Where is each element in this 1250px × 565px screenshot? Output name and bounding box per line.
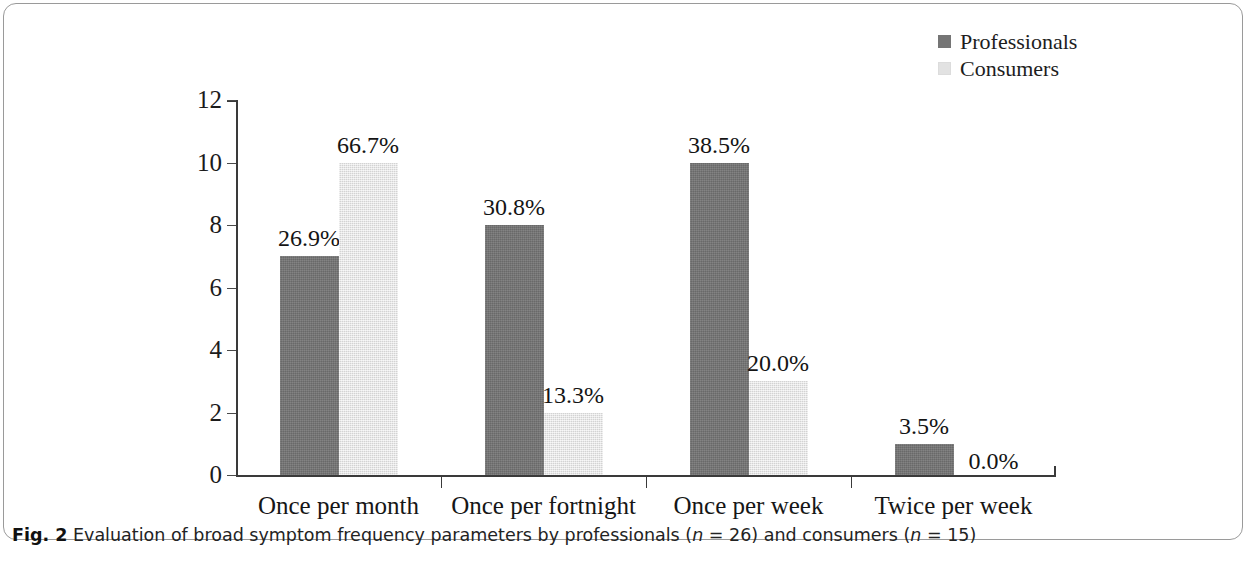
bar-value-label: 30.8%: [483, 195, 545, 219]
y-axis-tick-mark: [227, 163, 236, 164]
y-axis-tick-label: 4: [210, 336, 223, 364]
bar-group: 3.5%0.0%Twice per week: [851, 100, 1056, 475]
y-axis-tick-mark: [227, 475, 236, 476]
x-axis-separator: [441, 477, 442, 488]
bar-slot: 0.0%: [954, 100, 1013, 475]
bar-slot: 20.0%: [749, 100, 808, 475]
bar-consumers[interactable]: 13.3%: [544, 413, 603, 476]
bar-slot: 13.3%: [544, 100, 603, 475]
caption-text-3: = 15): [921, 525, 976, 545]
bar-value-label: 0.0%: [969, 449, 1019, 473]
bar-value-label: 3.5%: [899, 414, 949, 438]
y-axis-tick-label: 10: [197, 149, 222, 177]
x-axis-category-label: Twice per week: [851, 492, 1056, 520]
bar-professionals[interactable]: 26.9%: [280, 256, 339, 475]
plot-area: 024681012 26.9%66.7%Once per month30.8%1…: [236, 100, 1056, 475]
legend-swatch-professionals: [938, 35, 951, 48]
caption-n-var-2: n: [910, 525, 921, 545]
bar-professionals[interactable]: 38.5%: [690, 163, 749, 476]
legend-item-consumers: Consumers: [938, 55, 1238, 82]
y-axis-tick-label: 2: [210, 399, 223, 427]
x-axis-separator: [851, 477, 852, 488]
caption-text-1: Evaluation of broad symptom frequency pa…: [73, 525, 692, 545]
bar-slot: 30.8%: [485, 100, 544, 475]
caption-text-2: = 26) and consumers (: [703, 525, 910, 545]
figure-number: Fig. 2: [12, 525, 67, 545]
legend-item-professionals: Professionals: [938, 28, 1238, 55]
bar-consumers[interactable]: 20.0%: [749, 381, 808, 475]
bar-group-bars: 3.5%0.0%: [851, 100, 1056, 475]
bar-value-label: 13.3%: [542, 383, 604, 407]
bar-group: 38.5%20.0%Once per week: [646, 100, 851, 475]
y-axis-tick-label: 8: [210, 211, 223, 239]
bar-slot: 38.5%: [690, 100, 749, 475]
y-axis-tick-label: 0: [210, 461, 223, 489]
bar-slot: 3.5%: [895, 100, 954, 475]
legend-swatch-consumers: [938, 62, 951, 75]
chart-legend: Professionals Consumers: [938, 28, 1238, 82]
x-axis-category-label: Once per fortnight: [441, 492, 646, 520]
x-axis-category-label: Once per month: [236, 492, 441, 520]
y-axis-tick-mark: [227, 350, 236, 351]
figure-caption: Fig. 2 Evaluation of broad symptom frequ…: [12, 524, 1238, 547]
y-axis-tick-mark: [227, 413, 236, 414]
x-axis-separator: [646, 477, 647, 488]
bar-value-label: 38.5%: [688, 133, 750, 157]
caption-n-var-1: n: [692, 525, 703, 545]
legend-label-professionals: Professionals: [960, 31, 1077, 53]
y-axis-tick-label: 6: [210, 274, 223, 302]
bar-professionals[interactable]: 3.5%: [895, 444, 954, 475]
bar-group-bars: 38.5%20.0%: [646, 100, 851, 475]
bar-value-label: 20.0%: [747, 351, 809, 375]
x-axis-category-label: Once per week: [646, 492, 851, 520]
bar-value-label: 66.7%: [337, 133, 399, 157]
bar-slot: 26.9%: [280, 100, 339, 475]
bar-group-bars: 30.8%13.3%: [441, 100, 646, 475]
y-axis-tick-mark: [227, 100, 236, 101]
bar-professionals[interactable]: 30.8%: [485, 225, 544, 475]
legend-label-consumers: Consumers: [960, 58, 1059, 80]
bar-slot: 66.7%: [339, 100, 398, 475]
y-axis-tick-mark: [227, 225, 236, 226]
bar-consumers[interactable]: 66.7%: [339, 163, 398, 476]
bar-group: 26.9%66.7%Once per month: [236, 100, 441, 475]
bar-group-bars: 26.9%66.7%: [236, 100, 441, 475]
bar-value-label: 26.9%: [278, 226, 340, 250]
figure-root: Professionals Consumers 024681012 26.9%6…: [0, 0, 1250, 565]
y-axis-tick-mark: [227, 288, 236, 289]
bar-group: 30.8%13.3%Once per fortnight: [441, 100, 646, 475]
y-axis-tick-label: 12: [197, 86, 222, 114]
